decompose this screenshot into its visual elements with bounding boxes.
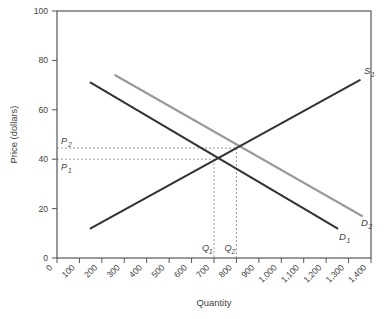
x-tick-label-1000: 1,000 xyxy=(256,262,278,284)
x-tick-label-500: 500 xyxy=(149,262,166,279)
curve-label-s1-letter: S xyxy=(364,65,371,76)
x-tick-label-0: 0 xyxy=(44,262,55,273)
x-tick-label-700: 700 xyxy=(194,262,211,279)
quantity-marker-q1: Q 1 xyxy=(202,243,213,255)
x-tick-label-1400: 1,400 xyxy=(346,262,368,284)
x-tick-label-1300: 1,300 xyxy=(324,262,346,284)
quantity-marker-q2-subscript: 2 xyxy=(231,248,236,255)
price-marker-p1-subscript: 1 xyxy=(68,167,72,174)
y-tick-label-80: 80 xyxy=(38,55,48,65)
y-tick-label-100: 100 xyxy=(34,6,49,16)
curve-label-d2-subscript: 2 xyxy=(368,223,373,230)
price-marker-p1: P 1 xyxy=(61,162,72,174)
guide-lines xyxy=(57,148,236,258)
chart-canvas: 0 20 40 60 80 100 Price (dollars) xyxy=(0,0,384,319)
curve-label-s1: S 1 xyxy=(364,65,375,78)
x-tick-label-200: 200 xyxy=(82,262,99,279)
price-marker-p2-subscript: 2 xyxy=(67,141,72,148)
price-marker-p2-letter: P xyxy=(61,136,68,146)
x-tick-label-600: 600 xyxy=(172,262,189,279)
x-tick-label-900: 900 xyxy=(239,262,256,279)
y-axis-title: Price (dollars) xyxy=(8,106,19,164)
x-tick-label-800: 800 xyxy=(217,262,234,279)
x-axis-title: Quantity xyxy=(197,297,232,308)
price-marker-p1-letter: P xyxy=(61,162,68,172)
price-marker-p2: P 2 xyxy=(61,136,72,148)
x-tick-labels: 0 100 200 300 400 500 600 700 800 900 1,… xyxy=(44,262,369,284)
y-tick-label-20: 20 xyxy=(38,204,48,214)
quantity-marker-q2: Q 2 xyxy=(225,243,236,255)
curve-label-d2-letter: D xyxy=(361,217,368,228)
curve-label-s1-subscript: 1 xyxy=(371,71,375,78)
y-tick-group xyxy=(52,11,57,258)
y-axis: 0 20 40 60 80 100 xyxy=(34,6,57,263)
x-tick-label-400: 400 xyxy=(127,262,144,279)
y-tick-label-0: 0 xyxy=(43,253,48,263)
x-tick-label-100: 100 xyxy=(60,262,77,279)
curve-label-d1-subscript: 1 xyxy=(347,237,351,244)
curve-label-d1-letter: D xyxy=(339,231,346,242)
curve-label-d1: D 1 xyxy=(339,231,351,244)
x-tick-label-300: 300 xyxy=(104,262,121,279)
x-tick-label-1200: 1,200 xyxy=(301,262,323,284)
quantity-marker-q1-subscript: 1 xyxy=(209,248,213,255)
y-tick-label-60: 60 xyxy=(38,105,48,115)
x-axis xyxy=(57,258,371,263)
supply-curve-s1 xyxy=(91,80,360,228)
y-tick-label-40: 40 xyxy=(38,154,48,164)
supply-demand-chart: 0 20 40 60 80 100 Price (dollars) xyxy=(0,0,384,319)
demand-curve-d1 xyxy=(91,83,338,229)
x-tick-label-1100: 1,100 xyxy=(279,262,301,284)
